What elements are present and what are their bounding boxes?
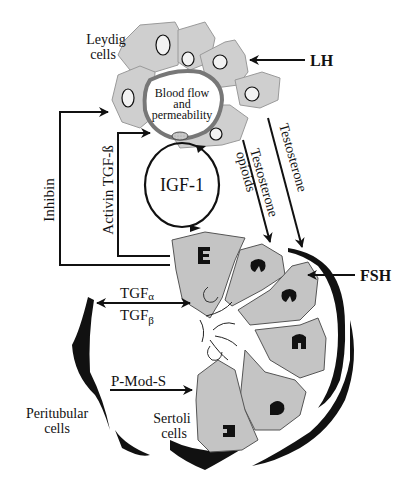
nucleus [122, 89, 134, 107]
igf-1-loop: IGF-1 [145, 143, 219, 232]
lh-label: LH [310, 52, 334, 69]
leydig-label-line2: cells [90, 47, 116, 62]
nucleus [210, 128, 222, 140]
sertoli-label-line1: Sertoli [153, 411, 190, 426]
tgf-beta-label: TGFβ [120, 307, 154, 326]
activin-label: Activin TGF-ß [100, 145, 116, 234]
nucleus [213, 55, 227, 69]
nucleus [182, 52, 194, 66]
inhibin-label: Inhibin [41, 178, 57, 222]
sertoli-cell-group [172, 232, 326, 452]
sertoli-nucleus [198, 247, 210, 264]
blood-vessel: Blood flow and permeability [145, 71, 222, 140]
tgf-alpha-label: TGFα [120, 285, 154, 302]
leydig-cell [118, 22, 182, 72]
sertoli-label-line2: cells [161, 426, 187, 441]
leydig-label-line1: Leydig [86, 32, 126, 47]
peritubular-label-line2: cells [44, 421, 70, 436]
testis-paracrine-diagram: Blood flow and permeability Leydig cells… [0, 0, 410, 482]
peritubular-label-line1: Peritubular [26, 406, 89, 421]
nucleus [245, 87, 259, 101]
fsh-label: FSH [360, 267, 392, 284]
igf-label: IGF-1 [160, 175, 204, 195]
sertoli-cell [255, 318, 326, 378]
testosterone-label: Testosterone [276, 122, 310, 194]
vessel-label-line3: permeability [152, 108, 213, 122]
igf-arrowhead-bottom [190, 225, 201, 232]
p-mod-s-label: P-Mod-S [111, 373, 166, 389]
nucleus [156, 35, 170, 55]
